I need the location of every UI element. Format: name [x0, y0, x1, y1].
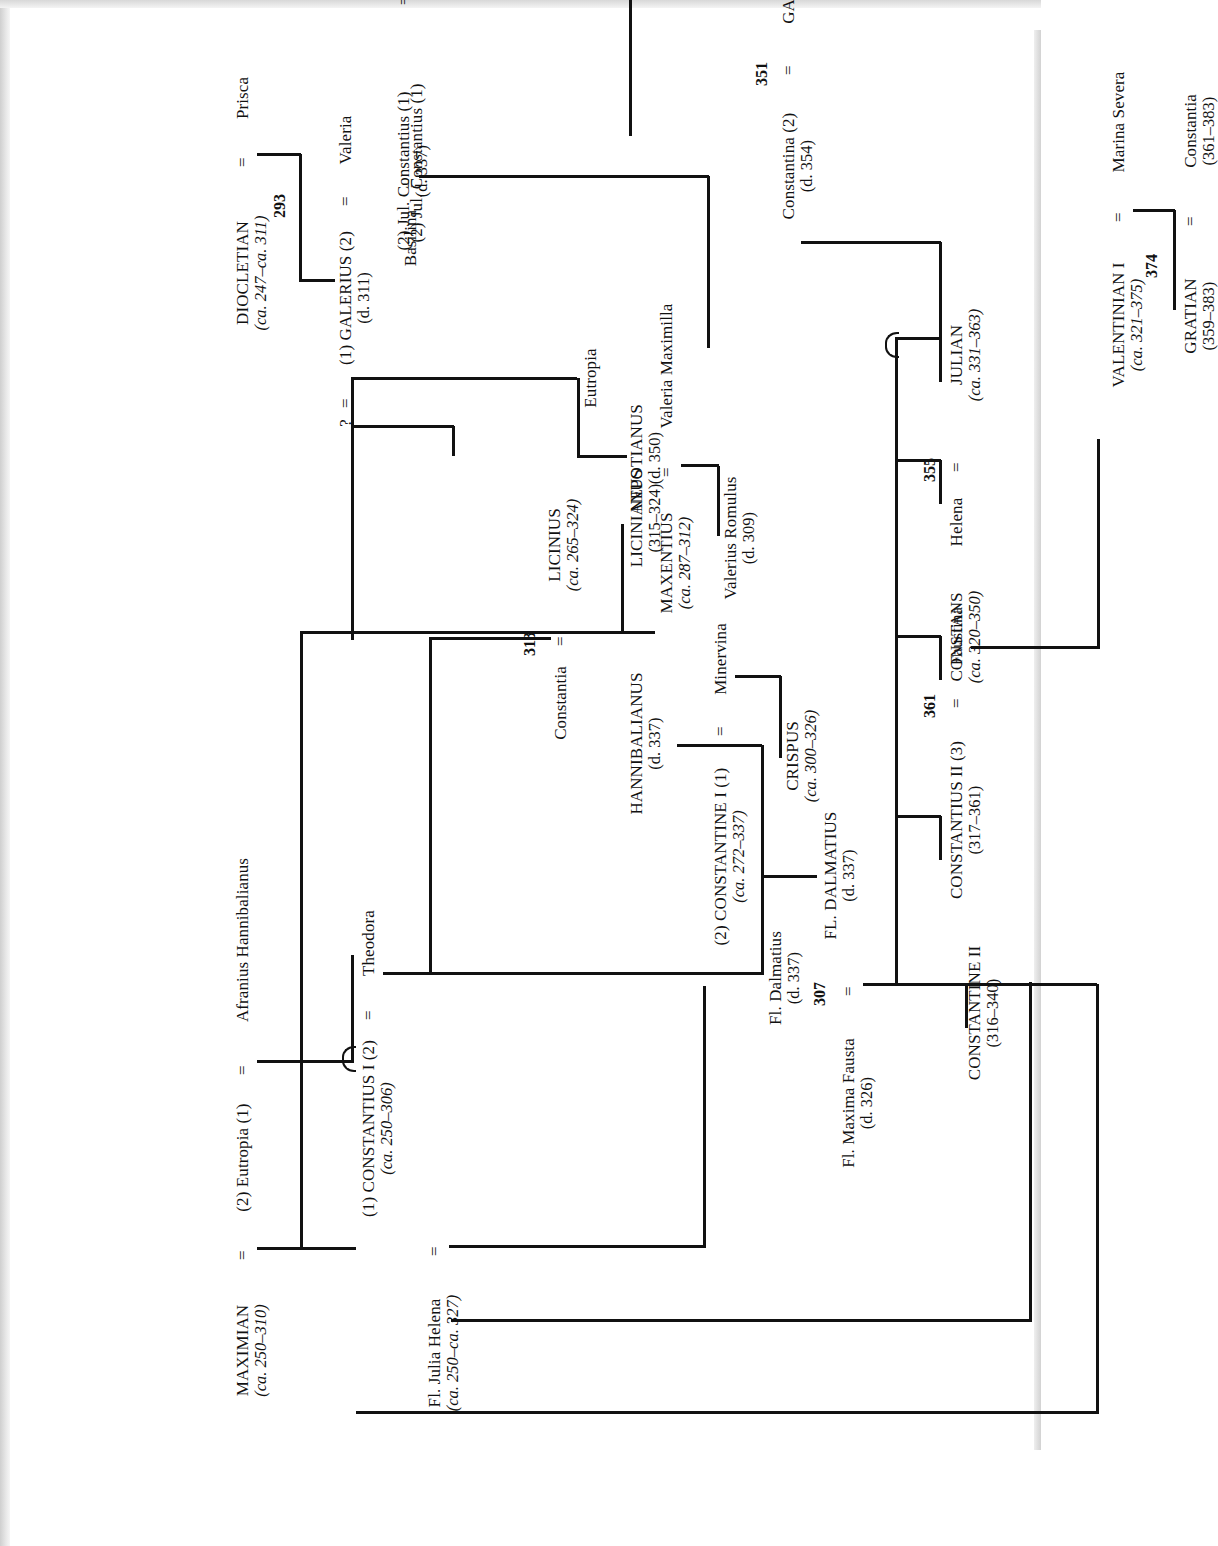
node-prisca-name: Prisca [233, 53, 252, 143]
page-edge-left [0, 0, 10, 1546]
node-constantine-ii-name: CONSTANTINE II [965, 908, 984, 1118]
node-julian: JULIAN (ca. 331–363) [947, 260, 985, 450]
line-helena-constantius-down [449, 1245, 705, 1248]
marriage-equals-helena-constantius: = [425, 1246, 445, 1256]
node-gratian-dates: (359–383) [1200, 226, 1218, 406]
line-constantina-up [801, 241, 941, 244]
node-fl-dalmatius-caps: FL. DALMATIUS (d. 337) [821, 778, 859, 973]
page-edge-top [0, 0, 1041, 8]
node-diocletian: DIOCLETIAN (ca. 247–ca. 311) [233, 178, 271, 368]
node-constantina-name: Constantina (2) [779, 76, 798, 256]
node-fausta-name: Fl. Maxima Fausta [839, 998, 858, 1208]
node-gallus-row: GALLUS CAESAR (325–354) [779, 0, 817, 54]
node-maxentius-dates: (ca. 287–312) [676, 478, 694, 648]
node-fl-dalmatius: Fl. Dalmatius (d. 337) [766, 888, 804, 1068]
marriage-equals-constantine-minervina: = [711, 726, 731, 736]
line-crossing-hop-theodora [342, 1046, 356, 1072]
node-constantina: Constantina (2) (d. 354) [779, 76, 817, 256]
line-constantius-theodora-children [429, 638, 432, 975]
node-galerius-dates: (d. 311) [355, 208, 373, 388]
node-constantia-name: Constantia [551, 648, 570, 758]
node-afranius-name: Afranius Hannibalianus [233, 825, 252, 1055]
line-dalmatius-to-fl-dalmatius-caps [761, 875, 817, 878]
line-helena-to-constantine [703, 986, 706, 1248]
line-constantius-ii-stub [939, 816, 942, 860]
line-outer-rail-1 [356, 1411, 1098, 1414]
line-outer-rail-2 [451, 1319, 1031, 1322]
node-jul-constantius-row: (2) Jul. Constantius (1) (d. 337) [394, 6, 432, 336]
node-fausta-dates: (d. 326) [858, 998, 876, 1208]
node-eutropia-1-name: (2) Eutropia (1) [233, 1075, 252, 1240]
node-valentinian-i-dates: (ca. 321–375) [1128, 220, 1146, 430]
node-constantius-ii: CONSTANTIUS II (3) (317–361) [947, 710, 985, 930]
line-constantine-fausta-down [863, 983, 897, 986]
marriage-equals-constantia-licinius: = [551, 636, 571, 646]
node-gratian: GRATIAN (359–383) [1181, 226, 1218, 406]
node-minervina: Minervina [711, 604, 730, 714]
line-valentinian-to-gratian [1173, 210, 1176, 310]
line-to-galerius [299, 279, 335, 282]
marriage-equals-galla: = [394, 0, 414, 5]
line-basilina-to-julian [707, 176, 710, 348]
line-basilina-down [419, 175, 709, 178]
marriage-equals-helena-julian: = [947, 462, 967, 472]
node-hannibalianus: HANNIBALIANUS (d. 337) [627, 641, 665, 846]
node-prisca: Prisca [233, 53, 252, 143]
marriage-equals-afranius: = [233, 1065, 253, 1075]
line-maxentius-marriage-down [681, 464, 719, 467]
node-fl-dalmatius-name: Fl. Dalmatius [766, 888, 785, 1068]
line-constantius-theodora-down [383, 972, 431, 975]
line-eutropia2-top [351, 378, 354, 640]
node-gallus-dates: (325–354) [798, 0, 816, 54]
node-constantius-ii-name: CONSTANTIUS II (3) [947, 710, 966, 930]
node-helena-name: Helena [947, 472, 966, 572]
line-constantina-bar [939, 242, 942, 382]
node-marina-severa-name: Marina Severa [1109, 42, 1128, 202]
line-eutropia2-stem [351, 377, 577, 380]
line-outer-rail-1-bottom [1096, 984, 1099, 1414]
marriage-equals-fausta-constantine: = [839, 986, 859, 996]
node-fl-dalmatius-caps-dates: (d. 337) [840, 778, 858, 973]
marriage-equals-constantina-gallus: = [779, 65, 799, 75]
line-eutropia2-to-nepotianus [577, 378, 580, 458]
line-unknown-to-maximilla [452, 426, 455, 456]
node-julia-helena: Fl. Julia Helena (ca. 250–ca. 327) [425, 1258, 463, 1448]
node-constantius-ii-dates: (317–361) [966, 710, 984, 930]
node-nepotianus: NEPOTIANUS (d. 350) [627, 363, 665, 553]
line-diocletian-sibling-bar [299, 154, 302, 281]
node-constantine-i: (2) CONSTANTINE I (1) (ca. 272–337) [711, 739, 749, 974]
year-293: 293 [271, 194, 289, 218]
node-galerius-name: (1) GALERIUS (2) [336, 208, 355, 388]
year-355: 355 [921, 458, 939, 482]
node-julian-dates: (ca. 331–363) [966, 260, 984, 450]
node-minervina-name: Minervina [711, 604, 730, 714]
node-valentinian-i: VALENTINIAN I (ca. 321–375) [1109, 220, 1147, 430]
node-maximian: MAXIMIAN (ca. 250–310) [233, 1263, 271, 1438]
node-gratian-name: GRATIAN [1181, 226, 1200, 406]
node-constantine-i-dates: (ca. 272–337) [730, 739, 748, 974]
node-licinius: LICINIUS (ca. 265–324) [545, 465, 583, 625]
node-helena: Helena [947, 472, 966, 572]
line-to-licinianus [621, 524, 624, 634]
line-diocletian-down [257, 153, 301, 156]
line-afranius-down [257, 1060, 353, 1063]
node-fl-dalmatius-caps-name: FL. DALMATIUS [821, 778, 840, 973]
line-child-constantius-ii [895, 815, 941, 818]
line-nepotianus-drop [577, 455, 627, 458]
year-307: 307 [811, 982, 829, 1006]
line-constans-stub [939, 636, 942, 680]
year-313: 313 [521, 632, 539, 656]
node-eutropia-2-name: Eutropia [581, 328, 600, 428]
line-constantine-children-bar [895, 338, 898, 986]
node-valeria-name: Valeria [336, 95, 355, 185]
node-eutropia-2: Eutropia [581, 328, 600, 428]
node-constantia-2-dates: (361–383) [1200, 56, 1218, 206]
node-gallus-name: GALLUS CAESAR [779, 0, 798, 54]
year-361: 361 [921, 694, 939, 718]
node-jul-constantius-label: (2) Jul. Constantius (1) [394, 6, 413, 336]
node-licinius-name: LICINIUS [545, 465, 564, 625]
marriage-equals-galerius-2: = [336, 196, 356, 206]
node-diocletian-dates: (ca. 247–ca. 311) [252, 178, 270, 368]
node-julia-helena-dates: (ca. 250–ca. 327) [444, 1258, 462, 1448]
node-constantia: Constantia [551, 648, 570, 758]
